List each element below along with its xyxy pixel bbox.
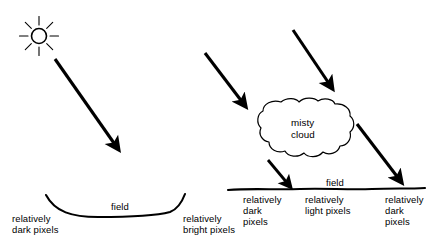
left-panel-field-label: field [111,201,129,212]
right-panel-light-pixels-label: relatively light pixels [305,194,351,216]
right-panel-dark-pixels-label-left: relatively dark pixels [243,194,282,228]
sun-icon [20,17,59,56]
right-panel-field-label: field [326,177,344,188]
sunbeam-arrow [55,59,116,146]
cloud-edge-light-arrow [357,124,399,179]
sunbeam-arrow-right [293,30,330,85]
diffuse-light-arrow [268,160,288,184]
sunbeam-arrow-left [205,53,243,103]
left-panel-dark-pixels-label: relatively dark pixels [12,213,59,235]
right-field-ground [228,188,425,190]
right-panel-dark-pixels-label-right: relatively dark pixels [385,194,424,228]
left-panel-bright-pixels-label: relatively bright pixels [183,213,235,235]
misty-cloud-label: misty cloud [291,117,315,140]
diagram-root: relatively dark pixels field relatively … [0,0,442,252]
